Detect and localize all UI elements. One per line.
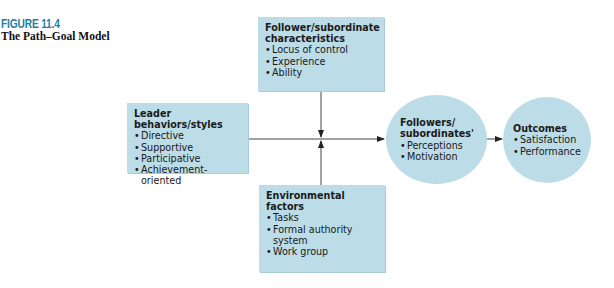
figure-number: FIGURE 11.4	[1, 17, 60, 31]
list-item: Satisfaction	[513, 134, 591, 145]
list-item: Locus of control	[265, 44, 377, 55]
list-item: Experience	[265, 56, 377, 67]
outcomes-circle: Outcomes Satisfaction Performance	[503, 97, 591, 183]
followers-perceptions-list: Perceptions Motivation	[400, 140, 487, 162]
leader-behaviors-box: Leader behaviors/styles Directive Suppor…	[127, 103, 248, 173]
outcomes-heading: Outcomes	[513, 123, 591, 134]
follower-characteristics-list: Locus of control Experience Ability	[265, 44, 377, 78]
list-item: Work group	[266, 246, 378, 257]
leader-behaviors-heading: Leader behaviors/styles	[134, 108, 241, 130]
list-item: Motivation	[400, 151, 487, 162]
followers-perceptions-heading: Followers/ subordinates'	[400, 117, 487, 139]
environmental-factors-heading: Environmental factors	[266, 190, 378, 212]
list-item: Performance	[513, 146, 591, 157]
list-item: Formal authority system	[266, 224, 378, 246]
environmental-factors-box: Environmental factors Tasks Formal autho…	[259, 185, 385, 272]
list-item: Achievement-oriented	[134, 164, 241, 186]
follower-characteristics-heading: Follower/subordinate characteristics	[265, 22, 377, 44]
leader-behaviors-list: Directive Supportive Participative Achie…	[134, 130, 241, 186]
follower-characteristics-box: Follower/subordinate characteristics Loc…	[258, 17, 384, 91]
list-item: Ability	[265, 67, 377, 78]
list-item: Perceptions	[400, 140, 487, 151]
figure-title: The Path–Goal Model	[1, 30, 110, 42]
outcomes-list: Satisfaction Performance	[513, 134, 591, 156]
list-item: Directive	[134, 130, 241, 141]
list-item: Tasks	[266, 212, 378, 223]
list-item: Participative	[134, 153, 241, 164]
followers-perceptions-circle: Followers/ subordinates' Perceptions Mot…	[386, 95, 487, 184]
environmental-factors-list: Tasks Formal authority system Work group	[266, 212, 378, 257]
list-item: Supportive	[134, 142, 241, 153]
